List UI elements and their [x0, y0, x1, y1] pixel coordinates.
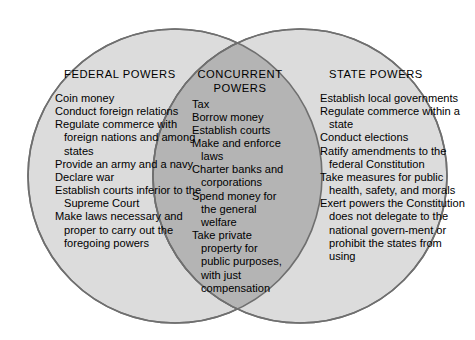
list-item: Borrow money	[192, 111, 288, 124]
concurrent-powers-section: CONCURRENT POWERS Tax Borrow money Estab…	[192, 68, 288, 295]
list-item: Establish courts	[192, 124, 288, 137]
list-item: Make and enforce laws	[192, 137, 288, 163]
list-item: Make laws necessary and proper to carry …	[55, 210, 205, 249]
list-item: Provide an army and a navy	[55, 158, 205, 171]
venn-diagram: FEDERAL POWERS Coin money Conduct foreig…	[0, 0, 475, 340]
list-item: Regulate commerce within a state	[320, 105, 470, 131]
state-powers-heading: STATE POWERS	[320, 68, 470, 81]
federal-powers-heading: FEDERAL POWERS	[55, 68, 205, 81]
list-item: Ratify amendments to the federal Constit…	[320, 145, 470, 171]
state-powers-list: Establish local governments Regulate com…	[320, 92, 470, 263]
list-item: Spend money for the general welfare	[192, 190, 288, 229]
list-item: Conduct foreign relations	[55, 105, 205, 118]
list-item: Establish local governments	[320, 92, 470, 105]
concurrent-powers-heading-line1: CONCURRENT	[192, 68, 288, 81]
concurrent-powers-list: Tax Borrow money Establish courts Make a…	[192, 98, 288, 295]
federal-powers-list: Coin money Conduct foreign relations Reg…	[55, 92, 205, 250]
list-item: Take private property for public purpose…	[192, 229, 288, 295]
list-item: Tax	[192, 98, 288, 111]
list-item: Exert powers the Constitution does not d…	[320, 197, 470, 263]
list-item: Declare war	[55, 171, 205, 184]
concurrent-powers-heading-line2: POWERS	[192, 82, 288, 95]
state-powers-section: STATE POWERS Establish local governments…	[320, 68, 470, 263]
list-item: Charter banks and corporations	[192, 163, 288, 189]
federal-powers-section: FEDERAL POWERS Coin money Conduct foreig…	[55, 68, 205, 250]
list-item: Coin money	[55, 92, 205, 105]
list-item: Conduct elections	[320, 131, 470, 144]
list-item: Establish courts inferior to the Supreme…	[55, 184, 205, 210]
list-item: Regulate commerce with foreign nations a…	[55, 118, 205, 157]
list-item: Take measures for public health, safety,…	[320, 171, 470, 197]
